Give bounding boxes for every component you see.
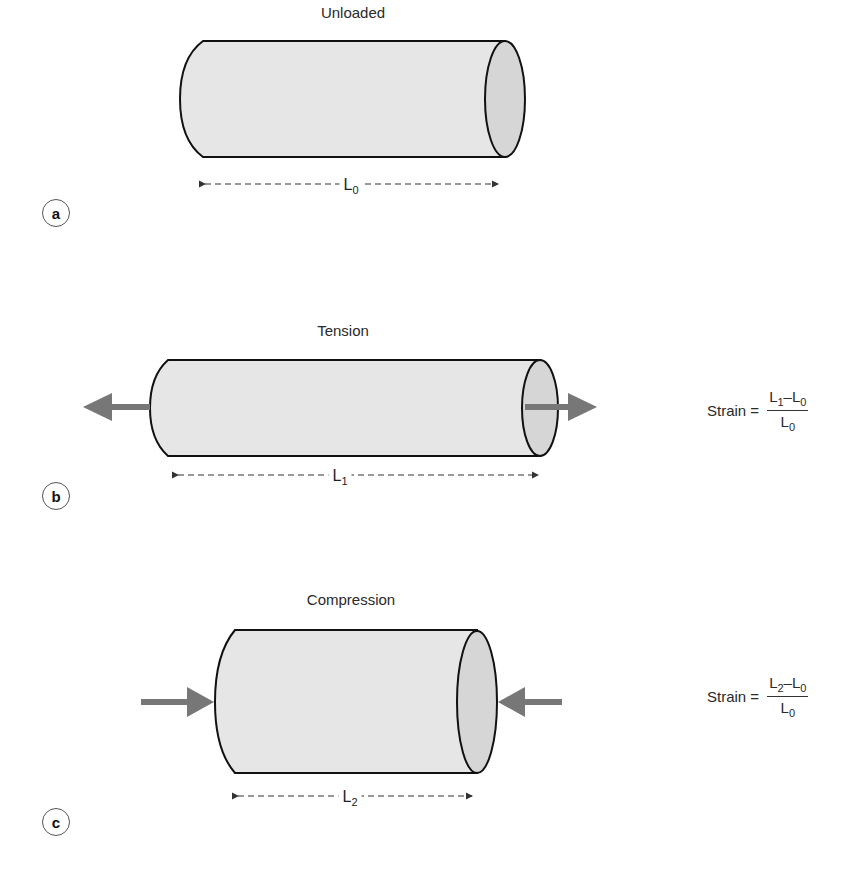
- cylinder-unloaded: [180, 41, 525, 157]
- formula-lhs: Strain =: [707, 688, 759, 705]
- formula-lhs: Strain =: [707, 402, 759, 419]
- strain-formula-compression: Strain = L2–L0 L0: [707, 674, 808, 719]
- cylinder-tension: [150, 360, 558, 456]
- title-tension: Tension: [317, 322, 369, 339]
- compression-arrow-right: [498, 687, 562, 717]
- strain-diagram-graphics: [0, 0, 853, 873]
- panel-label-b: b: [42, 482, 70, 510]
- strain-formula-tension: Strain = L1–L0 L0: [707, 388, 808, 433]
- panel-label-a: a: [42, 199, 70, 227]
- length-label-l0: L0: [339, 176, 362, 196]
- title-unloaded: Unloaded: [321, 4, 385, 21]
- title-compression: Compression: [307, 591, 395, 608]
- cylinder-compression: [215, 630, 497, 773]
- length-label-l1: L1: [328, 467, 351, 487]
- tension-arrow-left: [83, 393, 150, 421]
- panel-label-c: c: [42, 808, 70, 836]
- length-label-l2: L2: [338, 788, 361, 808]
- compression-arrow-left: [141, 687, 214, 717]
